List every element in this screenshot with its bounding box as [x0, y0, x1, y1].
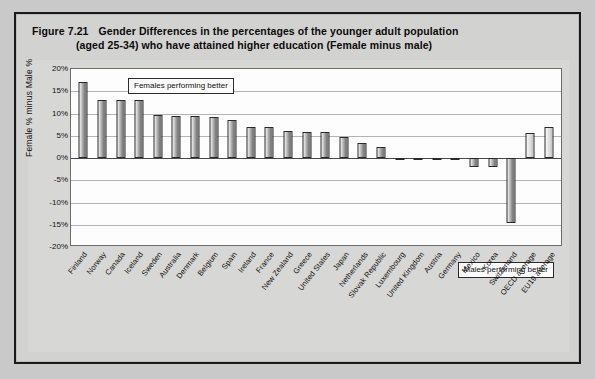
bar-cell	[279, 69, 298, 245]
y-tick-label: -5%	[32, 175, 68, 184]
y-tick-label: 5%	[32, 130, 68, 139]
bar-cell	[130, 69, 149, 245]
bar-sweden	[153, 115, 162, 158]
bar-denmark	[190, 116, 199, 158]
x-label-cell: Finland	[73, 248, 92, 344]
y-tick-label: 15%	[32, 86, 68, 95]
figure-title-line2: (aged 25-34) who have attained higher ed…	[32, 38, 567, 52]
x-label-cell: Canada	[110, 248, 129, 344]
plot-area	[70, 68, 562, 246]
x-label-cell: Iceland	[129, 248, 148, 344]
y-tick-label: 10%	[32, 108, 68, 117]
bar-cell	[148, 69, 167, 245]
y-tick-label: 20%	[32, 64, 68, 73]
bar-cell	[74, 69, 93, 245]
bar-greece	[302, 132, 311, 158]
bar-iceland	[135, 100, 144, 158]
bar-cell	[372, 69, 391, 245]
x-label-cell: United Kingdom	[409, 248, 428, 344]
x-label-cell: Ireland	[241, 248, 260, 344]
bar-cell	[335, 69, 354, 245]
y-tick-label: -10%	[32, 197, 68, 206]
bar-cell	[465, 69, 484, 245]
bar-cell	[483, 69, 502, 245]
bar-oecd-average	[525, 133, 534, 158]
x-label-cell: Korea	[484, 248, 503, 344]
chart-area: Female % minus Male % 20%15%10%5%0%-5%-1…	[28, 60, 569, 352]
bar-series	[71, 69, 561, 245]
bar-eu19-average	[544, 127, 553, 158]
bar-korea	[488, 158, 497, 167]
bar-japan	[339, 137, 348, 158]
bar-new-zealand	[284, 131, 293, 158]
bar-finland	[79, 82, 88, 158]
figure-frame: Figure 7.21Gender Differences in the per…	[14, 12, 581, 364]
bar-netherlands	[358, 143, 367, 158]
x-label-cell: EU19 average	[540, 248, 559, 344]
bar-germany	[451, 158, 460, 160]
bar-cell	[186, 69, 205, 245]
bar-cell	[223, 69, 242, 245]
bar-mexico	[470, 158, 479, 167]
figure-title: Figure 7.21Gender Differences in the per…	[32, 24, 567, 52]
x-label-cell: Denmark	[185, 248, 204, 344]
x-label-cell: Australia	[166, 248, 185, 344]
plot-wrapper: Females performing better Males performi…	[70, 68, 562, 246]
bar-cell	[409, 69, 428, 245]
x-label-cell: Sweden	[148, 248, 167, 344]
bar-norway	[97, 100, 106, 158]
bar-cell	[353, 69, 372, 245]
bar-spain	[228, 120, 237, 158]
bar-cell	[316, 69, 335, 245]
bar-united-states	[321, 132, 330, 158]
bar-united-kingdom	[414, 158, 423, 160]
bar-cell	[521, 69, 540, 245]
x-label-cell: Belgium	[204, 248, 223, 344]
bar-cell	[111, 69, 130, 245]
bar-cell	[446, 69, 465, 245]
bar-belgium	[209, 117, 218, 158]
y-tick-label: 0%	[32, 153, 68, 162]
y-axis-ticks: 20%15%10%5%0%-5%-10%-15%-20%	[28, 68, 68, 246]
x-label-cell: New Zealand	[279, 248, 298, 344]
x-label-cell: Germany	[447, 248, 466, 344]
x-label-cell: Spain	[223, 248, 242, 344]
bar-cell	[241, 69, 260, 245]
x-label-cell: Mexico	[465, 248, 484, 344]
bar-canada	[116, 100, 125, 158]
bar-slovak-republic	[377, 147, 386, 158]
x-label-cell: Norway	[92, 248, 111, 344]
x-label-cell: France	[260, 248, 279, 344]
y-tick-label: -20%	[32, 242, 68, 251]
x-label-cell: Greece	[297, 248, 316, 344]
figure-number: Figure 7.21	[32, 24, 99, 38]
x-label-cell: OECD average	[522, 248, 541, 344]
y-tick-label: -15%	[32, 219, 68, 228]
bar-cell	[204, 69, 223, 245]
bar-cell	[502, 69, 521, 245]
bar-cell	[167, 69, 186, 245]
bar-cell	[539, 69, 558, 245]
bar-france	[265, 127, 274, 158]
bar-cell	[390, 69, 409, 245]
x-label-cell: United States	[316, 248, 335, 344]
bar-switzerland	[507, 158, 516, 223]
x-label-cell: Austria	[428, 248, 447, 344]
figure-title-line1: Gender Differences in the percentages of…	[99, 25, 459, 37]
annotation-females-performing-better: Females performing better	[128, 78, 234, 94]
bar-cell	[297, 69, 316, 245]
bar-luxembourg	[395, 158, 404, 160]
bar-austria	[432, 158, 441, 160]
bar-ireland	[246, 127, 255, 158]
bar-cell	[428, 69, 447, 245]
bar-cell	[93, 69, 112, 245]
bar-australia	[172, 116, 181, 158]
bar-cell	[260, 69, 279, 245]
x-axis-labels: FinlandNorwayCanadaIcelandSwedenAustrali…	[70, 248, 562, 344]
